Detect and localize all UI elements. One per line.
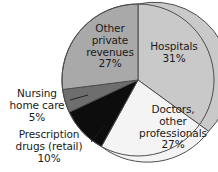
pie-label-other-private-revenues: Other private revenues 27% <box>79 23 141 70</box>
pie-label-prescription-drugs: Prescription drugs (retail) 10% <box>2 129 96 164</box>
pie-label-nursing-home-care: Nursing home care 5% <box>2 88 72 123</box>
pie-chart-figure: Hospitals 31% Doctors, other professiona… <box>0 0 218 172</box>
pie-label-doctors: Doctors, other professionals 27% <box>134 104 212 151</box>
pie-label-hospitals: Hospitals 31% <box>143 41 205 65</box>
